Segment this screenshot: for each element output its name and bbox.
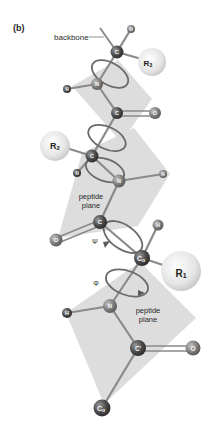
atom-c-3: C'	[130, 340, 146, 356]
atom-n-1: N	[91, 78, 103, 90]
atom-h-n1: H	[63, 85, 71, 93]
svg-text:C: C	[90, 153, 94, 159]
atom-n-3: N	[103, 299, 117, 313]
atom-h-n3: H	[62, 308, 72, 318]
svg-text:C: C	[115, 110, 119, 116]
svg-text:H: H	[65, 87, 68, 92]
atom-n-2: N	[113, 175, 126, 188]
svg-text:C: C	[98, 219, 103, 225]
svg-text:H: H	[156, 222, 160, 228]
svg-text:C': C'	[135, 345, 142, 352]
svg-text:H: H	[161, 172, 164, 177]
peptide-backbone-diagram: R3 R2 R1 C H N H C O C H N H C O H Cα N …	[0, 0, 213, 426]
atom-calpha-1: Cα	[134, 250, 150, 266]
svg-text:O: O	[153, 110, 158, 116]
atom-calpha-bottom: Cα	[94, 400, 111, 417]
atom-h-top: H	[127, 25, 135, 33]
r2-sphere: R2	[40, 131, 70, 161]
atom-calpha-top: C	[111, 46, 124, 59]
atom-h-calpha1: H	[153, 220, 164, 231]
peptide-plane-top	[72, 60, 152, 142]
r3-sphere: R3	[138, 48, 166, 76]
svg-text:N: N	[117, 178, 121, 184]
panel-label: (b)	[13, 23, 25, 33]
svg-text:C: C	[115, 49, 120, 55]
svg-text:H: H	[129, 27, 132, 32]
atom-c-1: C	[111, 107, 123, 119]
svg-text:O: O	[190, 345, 195, 352]
atom-o-3: O	[186, 341, 201, 356]
svg-text:O: O	[54, 237, 59, 243]
svg-text:H: H	[75, 171, 78, 176]
atom-o-1: O	[149, 107, 161, 119]
atom-h-n2: H	[159, 170, 167, 178]
phi-label: Φ	[93, 280, 99, 287]
psi-label: Ψ	[92, 238, 98, 245]
atom-h-mid: H	[73, 169, 81, 177]
atom-c-2: C	[93, 215, 107, 229]
svg-text:N: N	[95, 81, 99, 87]
backbone-label: backbone	[54, 33, 89, 42]
atom-o-2: O	[50, 234, 63, 247]
peptide-plane-label-1: peptideplane	[79, 192, 104, 210]
peptide-plane-label-2: peptideplane	[136, 306, 161, 324]
svg-text:N: N	[108, 303, 112, 309]
r1-sphere: R1	[161, 251, 201, 291]
atom-calpha-mid: C	[86, 150, 99, 163]
svg-text:H: H	[65, 310, 69, 316]
